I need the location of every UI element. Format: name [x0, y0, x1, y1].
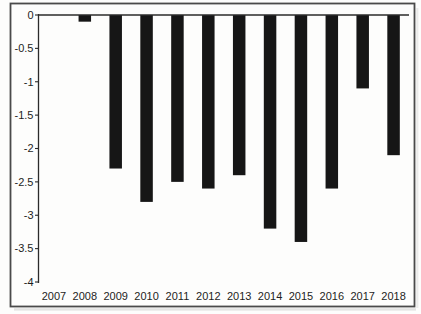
- x-tick-label: 2009: [103, 290, 127, 302]
- bar-chart: 0-0.5-1-1.5-2-2.5-3-3.5-4200720082009201…: [0, 0, 421, 314]
- bar-2017: [356, 15, 369, 88]
- bar-2016: [326, 15, 339, 189]
- x-tick-label: 2016: [320, 290, 344, 302]
- y-tick-label: -3: [24, 209, 34, 221]
- y-tick-label: -1: [24, 76, 34, 88]
- bar-2018: [387, 15, 400, 155]
- x-tick-label: 2007: [42, 290, 66, 302]
- frame-shadow-right: [416, 8, 418, 308]
- bar-2009: [109, 15, 122, 169]
- y-tick-label: -4: [24, 276, 34, 288]
- bar-2008: [79, 15, 92, 22]
- y-tick-label: 0: [27, 9, 33, 21]
- y-tick-label: -2: [24, 142, 34, 154]
- bar-2014: [264, 15, 277, 229]
- y-tick-label: -3.5: [15, 242, 34, 254]
- x-tick-label: 2015: [289, 290, 313, 302]
- bar-2011: [171, 15, 184, 182]
- bar-2010: [140, 15, 153, 202]
- bar-2013: [233, 15, 246, 175]
- x-tick-label: 2011: [166, 290, 190, 302]
- y-tick-label: -0.5: [15, 42, 34, 54]
- frame-shadow-bottom: [14, 308, 416, 310]
- y-tick-label: -2.5: [15, 176, 34, 188]
- x-tick-label: 2013: [227, 290, 251, 302]
- bar-2012: [202, 15, 215, 189]
- figure-frame: 0-0.5-1-1.5-2-2.5-3-3.5-4200720082009201…: [0, 0, 421, 314]
- x-tick-label: 2010: [134, 290, 158, 302]
- x-tick-label: 2014: [258, 290, 282, 302]
- x-tick-label: 2012: [196, 290, 220, 302]
- y-tick-label: -1.5: [15, 109, 34, 121]
- x-tick-label: 2008: [73, 290, 97, 302]
- bar-2015: [295, 15, 308, 242]
- x-tick-label: 2017: [350, 290, 374, 302]
- x-tick-label: 2018: [381, 290, 405, 302]
